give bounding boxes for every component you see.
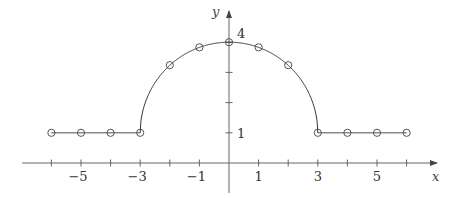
x-tick-label: −3 [128,169,147,184]
x-tick-label: −5 [68,169,87,184]
x-tick-label: 3 [314,169,322,184]
y-tick-label: 4 [237,26,245,41]
x-axis-label: x [432,169,440,184]
labels: x y −5−3−113514 [68,4,440,184]
x-tick-label: 1 [254,169,262,184]
y-axis-label: y [211,4,220,19]
x-tick-label: −1 [187,169,206,184]
function-plot: x y −5−3−113514 [0,0,459,198]
x-tick-label: 5 [373,169,381,184]
y-tick-label: 1 [237,126,245,141]
